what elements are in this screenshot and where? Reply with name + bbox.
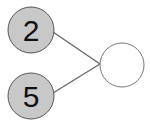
part-value-top: 2	[23, 14, 40, 47]
connector-bottom	[53, 64, 100, 93]
whole-circle[interactable]	[100, 43, 144, 87]
connector-top	[53, 32, 100, 64]
part-value-bottom: 5	[23, 80, 40, 113]
number-bond-diagram: 2 5	[0, 0, 150, 123]
part-circle-bottom: 5	[8, 73, 54, 119]
part-circle-top: 2	[8, 7, 54, 53]
